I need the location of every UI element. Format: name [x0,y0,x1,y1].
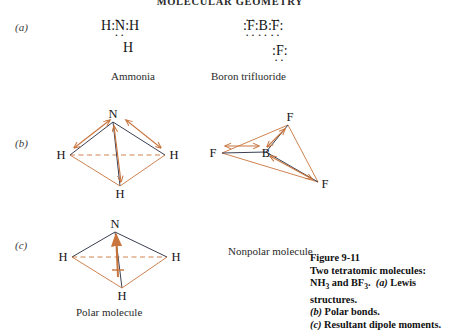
figure-caption-line-2: NH3 and BF3. (a) Lewis structures. [310,277,460,306]
lewis-fluorine-bottom: F·· [276,44,284,58]
ammonia-b-label-n: N [108,107,117,121]
ammonia-b-bond-n-hleft [70,122,113,155]
lone-pair-dots-below-f-left: ·· [245,28,256,41]
lewis-h-bottom: H [123,40,133,55]
bf3-b-edge-bottom [222,153,318,182]
panel-letter-a: (a) [15,21,28,33]
figure-caption: Figure 9-11 Two tetratomic molecules: NH… [310,252,460,332]
figure-tag-a: (a) [376,277,388,288]
lewis-structure-ammonia-row1: H:··N··:H [101,19,139,33]
lewis-h-right: H [129,18,139,33]
nh3-pre: NH [310,277,325,288]
lone-pair-dots-below-n: ·· [114,28,125,41]
ammonia-c-label-h-front: H [117,289,126,303]
lone-pair-dots-below-f-right: ·· [270,28,281,41]
lewis-h-left: H [101,18,111,33]
bf3-b-label-f-bottom: F [322,177,329,191]
lone-pair-dots-above-f-right: ·· [270,13,281,26]
lewis-structure-bf3-row2: :F··: [272,44,288,58]
bf3-b-dipole-top [267,129,285,147]
ammonia-c-label-h-right: H [171,250,180,264]
bf3-b-label-b: B [262,146,270,160]
lewis-structure-bf3-row1: :··F··:B··:··F··: [243,19,284,33]
ammonia-c-bond-n-hleft [72,232,115,257]
bf3-mid: and BF [329,277,364,288]
figure-text-c: Resultant dipole moments. [321,319,441,330]
figure-caption-line-4: (c) Resultant dipole moments. [310,319,460,332]
ammonia-c-edge-hleft-hfront [72,257,122,288]
bf3-b-edge-top [222,125,288,153]
lewis-fluorine-left: ··F·· [247,19,255,33]
ammonia-b-dipole-left [74,120,110,148]
ammonia-b-dipole-front [114,126,121,182]
ammonia-b-label-h-front: H [115,187,124,201]
figure-caption-line-1: Two tetratomic molecules: [310,265,460,278]
lone-pair-dots-below-b: ·· [258,28,269,41]
figure-number: Figure 9-11 [310,252,460,265]
ammonia-b-bond-n-hright [113,122,165,155]
caption-boron-trifluoride: Boron trifluoride [211,70,286,82]
figure-tag-b: (b) [310,306,322,317]
ammonia-b-edge-hright-hfront [120,155,165,186]
lewis-nitrogen: ··N·· [115,19,125,33]
panel-letter-c: (c) [15,239,27,251]
running-head: MOLECULAR GEOMETRY [0,0,460,7]
ammonia-polar-bonds-structure: N H H H [56,107,178,201]
bf3-post: . [368,277,371,288]
ammonia-b-label-h-right: H [169,148,178,162]
figure-page: MOLECULAR GEOMETRY (a) (b) (c) H:··N··:H… [0,0,460,334]
ammonia-b-label-h-left: H [56,148,65,162]
lone-pair-dots-below-f-bottom: ·· [274,53,285,66]
ammonia-resultant-dipole-structure: N H H H [58,217,180,303]
ammonia-c-edge-hright-hfront [122,257,167,288]
figure-text-b: Polar bonds. [322,306,380,317]
caption-ammonia: Ammonia [111,70,155,82]
bf3-b-label-f-left: F [210,146,217,160]
boron-trifluoride-polar-bonds-structure: B F F F [210,110,329,191]
lone-pair-dots-above-f-left: ·· [245,13,256,26]
caption-polar-molecule: Polar molecule [76,306,142,318]
bf3-b-dipole-bottom [270,156,312,179]
figure-tag-c: (c) [310,319,321,330]
ammonia-b-dipole-right [126,120,161,148]
ammonia-c-bond-n-hright [115,232,167,257]
lewis-structure-ammonia-row2: H [123,41,133,55]
ammonia-b-edge-hleft-hfront [70,155,120,186]
ammonia-c-label-h-left: H [58,250,67,264]
ammonia-c-label-n: N [110,217,119,231]
ammonia-c-resultant-dipole-arrow [116,234,118,277]
panel-letter-b: (b) [15,137,28,149]
bf3-b-bond-b-fbottom [266,152,318,182]
bf3-b-bond-b-fleft [222,152,266,153]
lone-pair-dots-above-n: ·· [114,13,125,26]
lewis-boron: B·· [259,19,268,33]
ammonia-b-bond-n-hfront [113,122,120,186]
figure-caption-line-3: (b) Polar bonds. [310,306,460,319]
ammonia-c-bond-n-hfront [115,232,122,288]
bf3-b-label-f-top: F [287,110,294,124]
bf3-b-bond-b-ftop [266,125,288,152]
lewis-fluorine-right: ··F·· [272,19,280,33]
bf3-b-edge-right [288,125,318,182]
caption-nonpolar-molecule: Nonpolar molecule [228,245,313,257]
